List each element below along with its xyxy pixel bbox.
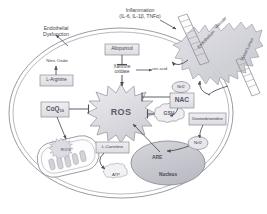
nrf2-label: Nrf2 [189, 137, 207, 149]
coq10-subscript: 10 [60, 108, 64, 113]
diagram-canvas: Inflammation (IL-6, IL-1β, TNFα) Endothe… [0, 0, 267, 214]
allopurinol-label: Allopurinol [105, 44, 139, 55]
l-carnitine-label: L-Carnitine [96, 142, 129, 153]
xanthine-oxidase-label: Xanthine oxidase [104, 64, 140, 74]
nac-nrf2-label: Nrf2 [172, 82, 190, 92]
endothelial-line2: Dysfunction [33, 32, 79, 38]
nucleus-label: Nucleus [148, 172, 188, 178]
xanthine-oxidase-line2: oxidase [104, 69, 140, 74]
nitric-oxide-label: Nitric Oxide [41, 58, 73, 63]
endothelial-dysfunction-label: Endothelial Dysfunction [33, 26, 79, 38]
are-label: ARE [152, 155, 162, 161]
dexmedetomidine-label: Dexmedetomidine [189, 113, 226, 125]
ros-mito-label: ROS [56, 147, 76, 152]
ros-label: ROS [110, 107, 132, 117]
l-arginine-label: L-Arginine [40, 75, 73, 86]
coq10-name: CoQ [46, 105, 60, 112]
nac-label: NAC [170, 93, 194, 108]
inflammation-label: Inflammation (IL-6, IL-1β, TNFα) [112, 8, 168, 20]
gsh-label: GSH [158, 108, 180, 119]
arrow-inflammation-to-vessel [160, 20, 176, 29]
atp-label: ATP [106, 172, 126, 177]
uric-acid-label: uric acid [152, 67, 167, 72]
inflammation-line2: (IL-6, IL-1β, TNFα) [112, 14, 168, 20]
coq10-label: CoQ10 [41, 102, 69, 117]
